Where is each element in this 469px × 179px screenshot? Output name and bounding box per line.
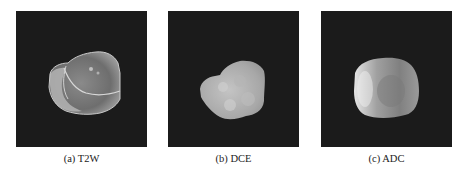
panel-adc-image xyxy=(321,11,452,147)
caption-dce: (b) DCE xyxy=(168,153,299,164)
adc-prostate-image xyxy=(321,11,452,147)
dce-prostate-image xyxy=(168,11,299,147)
panel-dce-image xyxy=(168,11,299,147)
t2w-prostate-image xyxy=(16,11,147,147)
caption-adc: (c) ADC xyxy=(321,153,452,164)
caption-t2w: (a) T2W xyxy=(16,153,147,164)
panel-t2w-image xyxy=(16,11,147,147)
